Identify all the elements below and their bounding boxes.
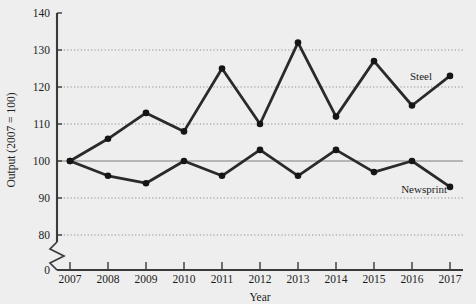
data-point-newsprint-2013 [295, 173, 302, 180]
data-point-newsprint-2015 [371, 169, 378, 176]
data-point-steel-2015 [371, 58, 378, 65]
chart-background [0, 0, 476, 304]
y-axis-title: Output (2007 = 100) [5, 92, 18, 187]
chart-figure: 140 130 120 110 100 90 80 0 Output (2007… [0, 0, 476, 304]
y-tick-label-80: 80 [39, 229, 51, 241]
x-tick-label-2017: 2017 [439, 273, 462, 285]
data-point-newsprint-2010 [181, 158, 188, 165]
y-tick-label-140: 140 [33, 7, 51, 19]
x-tick-label-2012: 2012 [249, 273, 272, 285]
data-point-newsprint-2008 [105, 173, 112, 180]
series-label-steel: Steel [410, 70, 432, 82]
data-point-steel-2012 [257, 121, 264, 128]
x-tick-label-2007: 2007 [59, 273, 82, 285]
data-point-steel-2013 [295, 39, 302, 46]
data-point-newsprint-2009 [143, 180, 150, 187]
data-point-newsprint-2011 [219, 173, 226, 180]
data-point-steel-2017 [447, 73, 454, 80]
data-point-steel-2016 [409, 102, 416, 109]
data-point-steel-2009 [143, 110, 150, 117]
data-point-steel-2011 [219, 65, 226, 72]
y-tick-label-0: 0 [44, 264, 50, 276]
x-tick-label-2013: 2013 [287, 273, 310, 285]
x-tick-label-2009: 2009 [135, 273, 158, 285]
series-label-newsprint: Newsprint [401, 183, 447, 195]
data-point-steel-2008 [105, 136, 112, 143]
x-tick-label-2016: 2016 [401, 273, 424, 285]
x-tick-label-2010: 2010 [173, 273, 196, 285]
x-tick-label-2008: 2008 [97, 273, 120, 285]
y-tick-label-130: 130 [33, 44, 51, 56]
y-tick-label-90: 90 [39, 192, 51, 204]
line-chart-canvas: 140 130 120 110 100 90 80 0 Output (2007… [0, 0, 476, 304]
y-tick-label-110: 110 [33, 118, 50, 130]
data-point-newsprint-2016 [409, 158, 416, 165]
x-tick-label-2014: 2014 [325, 273, 348, 285]
data-point-newsprint-2007 [67, 158, 74, 165]
data-point-newsprint-2017 [447, 184, 454, 191]
data-point-steel-2014 [333, 113, 340, 120]
x-axis-title: Year [249, 291, 270, 303]
y-tick-label-100: 100 [33, 155, 51, 167]
data-point-newsprint-2012 [257, 147, 264, 154]
x-tick-label-2015: 2015 [363, 273, 386, 285]
y-tick-label-120: 120 [33, 81, 51, 93]
data-point-steel-2010 [181, 128, 188, 135]
x-tick-label-2011: 2011 [211, 273, 234, 285]
data-point-newsprint-2014 [333, 147, 340, 154]
